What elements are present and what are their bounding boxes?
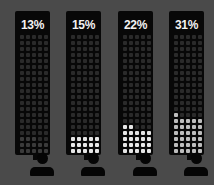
dot-grid [122, 34, 152, 154]
dot [129, 47, 133, 51]
dot [32, 71, 36, 75]
dot [135, 143, 139, 147]
dot [192, 113, 196, 117]
dot [38, 47, 42, 51]
dot [26, 131, 30, 135]
dot [71, 77, 75, 81]
dot [141, 35, 145, 39]
dot [129, 149, 133, 153]
dot [20, 125, 24, 129]
dot [89, 71, 93, 75]
dot [83, 35, 87, 39]
dot [198, 143, 202, 147]
dot [192, 89, 196, 93]
dot [38, 35, 42, 39]
dot [38, 113, 42, 117]
dot [38, 71, 42, 75]
column-4: 31% [169, 0, 214, 185]
dot [44, 77, 48, 81]
dot [77, 83, 81, 87]
dot [95, 137, 99, 141]
dot [141, 83, 145, 87]
dot [135, 47, 139, 51]
dot [95, 119, 99, 123]
dot [83, 47, 87, 51]
dot [77, 113, 81, 117]
dot [71, 95, 75, 99]
dot [32, 125, 36, 129]
dot [44, 89, 48, 93]
dot [77, 101, 81, 105]
dot [83, 119, 87, 123]
dot [180, 113, 184, 117]
dot [89, 65, 93, 69]
dot [180, 41, 184, 45]
dot [83, 53, 87, 57]
dot [135, 137, 139, 141]
dot [135, 95, 139, 99]
dot [147, 149, 151, 153]
dot [123, 125, 127, 129]
dot [198, 131, 202, 135]
dot [174, 47, 178, 51]
dot [20, 107, 24, 111]
dot [129, 65, 133, 69]
dot [26, 137, 30, 141]
dot [44, 71, 48, 75]
dot [198, 35, 202, 39]
dot [135, 101, 139, 105]
dot [71, 107, 75, 111]
dot [192, 131, 196, 135]
dot [44, 107, 48, 111]
dot [129, 119, 133, 123]
dot [180, 101, 184, 105]
dot [38, 65, 42, 69]
dot [95, 143, 99, 147]
dot [129, 77, 133, 81]
dot [26, 149, 30, 153]
column-2: 15% [66, 0, 116, 185]
dot [174, 95, 178, 99]
dot [89, 41, 93, 45]
dot [186, 47, 190, 51]
dot [89, 83, 93, 87]
dot [26, 113, 30, 117]
dot [141, 65, 145, 69]
dot [89, 107, 93, 111]
dot [89, 95, 93, 99]
dot [44, 101, 48, 105]
dot [135, 89, 139, 93]
dot [38, 131, 42, 135]
dot [180, 59, 184, 63]
dot [123, 113, 127, 117]
dot [147, 41, 151, 45]
dot [123, 143, 127, 147]
dot [77, 41, 81, 45]
dot [186, 77, 190, 81]
dot [83, 149, 87, 153]
dot [123, 149, 127, 153]
dot [38, 53, 42, 57]
dot [135, 35, 139, 39]
dot [141, 119, 145, 123]
column-1: 13% [15, 0, 65, 185]
dot [77, 137, 81, 141]
dot [180, 149, 184, 153]
dot [198, 119, 202, 123]
dot [129, 143, 133, 147]
speech-bubble: 15% [66, 11, 101, 155]
dot [147, 113, 151, 117]
dot [71, 131, 75, 135]
dot [174, 65, 178, 69]
dot [44, 59, 48, 63]
dot [135, 149, 139, 153]
dot [198, 71, 202, 75]
dot [20, 41, 24, 45]
dot [32, 101, 36, 105]
dot [26, 35, 30, 39]
dot [147, 107, 151, 111]
dot [174, 71, 178, 75]
dot [192, 53, 196, 57]
dot [135, 107, 139, 111]
dot [83, 83, 87, 87]
